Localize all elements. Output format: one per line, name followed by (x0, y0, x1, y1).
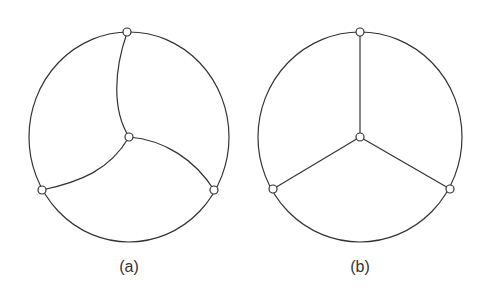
node-right-a (210, 186, 218, 194)
figure-b (258, 28, 462, 242)
edge-center-right-a (129, 137, 214, 190)
node-center-b (356, 133, 364, 141)
node-top-b (356, 28, 364, 36)
caption-a: (a) (119, 258, 139, 276)
caption-b: (b) (350, 258, 370, 276)
edge-center-left-a (42, 137, 129, 190)
node-left-a (38, 186, 46, 194)
diagram-canvas (0, 0, 488, 299)
edge-top-center-a (117, 33, 129, 137)
node-left-b (269, 185, 277, 193)
edge-center-right-b (360, 137, 450, 189)
node-right-b (446, 185, 454, 193)
node-top-a (123, 28, 131, 36)
node-center-a (125, 133, 133, 141)
figure-a (29, 28, 229, 242)
edge-center-left-b (273, 137, 360, 189)
